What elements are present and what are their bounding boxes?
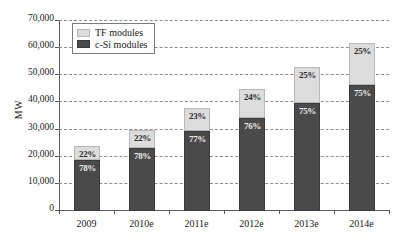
bar-segment-tf: 22% bbox=[129, 130, 155, 148]
bar-segment-tf: 23% bbox=[184, 108, 210, 132]
x-axis-tick bbox=[169, 210, 170, 214]
stacked-bar-chart: MW 010,00020,00030,00040,00050,00060,000… bbox=[0, 0, 397, 242]
bar-group: 77%23% bbox=[184, 21, 210, 211]
light-gray-swatch-icon bbox=[77, 29, 90, 37]
bar-segment-tf: 22% bbox=[74, 146, 100, 160]
bar-segment-label-tf: 22% bbox=[130, 133, 156, 143]
legend-item-tf-modules: TF modules bbox=[77, 27, 148, 39]
bar-group: 75%25% bbox=[349, 21, 375, 211]
y-axis-tick bbox=[55, 101, 59, 102]
y-axis-tick-label: 40,000 bbox=[28, 94, 54, 104]
x-axis-tick-label: 2011e bbox=[167, 218, 227, 229]
gridline bbox=[59, 183, 389, 184]
gridline bbox=[59, 74, 389, 75]
dark-gray-swatch-icon bbox=[77, 40, 90, 48]
y-axis-tick bbox=[55, 156, 59, 157]
y-axis-tick-label: 70,000 bbox=[28, 13, 54, 23]
bar-segment-label-tf: 25% bbox=[350, 46, 376, 56]
x-axis-tick bbox=[389, 210, 390, 214]
x-axis-tick bbox=[114, 210, 115, 214]
bar-segment-label-tf: 23% bbox=[185, 111, 211, 121]
y-axis-tick bbox=[55, 47, 59, 48]
bar-segment-label-csi: 76% bbox=[240, 121, 266, 131]
bar-segment-tf: 24% bbox=[239, 89, 265, 118]
bar-segment-label-tf: 25% bbox=[295, 70, 321, 80]
gridline bbox=[59, 129, 389, 130]
chart-legend: TF modules c-Si modules bbox=[72, 23, 155, 54]
y-axis-tick-label: 10,000 bbox=[28, 176, 54, 186]
x-axis-tick bbox=[334, 210, 335, 214]
bar-segment-label-csi: 75% bbox=[350, 88, 376, 98]
bar-segment-csi: 75% bbox=[294, 103, 320, 211]
x-axis-tick-label: 2009 bbox=[57, 218, 117, 229]
legend-label-tf-modules: TF modules bbox=[95, 27, 143, 39]
gridline bbox=[59, 156, 389, 157]
x-axis-tick-label: 2013e bbox=[277, 218, 337, 229]
x-axis-tick-label: 2014e bbox=[332, 218, 392, 229]
legend-label-csi-modules: c-Si modules bbox=[95, 39, 148, 51]
bar-segment-tf: 25% bbox=[349, 43, 375, 85]
y-axis-tick bbox=[55, 74, 59, 75]
bar-segment-label-tf: 24% bbox=[240, 92, 266, 102]
x-axis-tick-label: 2010e bbox=[112, 218, 172, 229]
x-axis-tick bbox=[279, 210, 280, 214]
bar-segment-csi: 77% bbox=[184, 131, 210, 211]
legend-item-csi-modules: c-Si modules bbox=[77, 39, 148, 51]
bar-segment-tf: 25% bbox=[294, 67, 320, 103]
y-axis-tick bbox=[55, 183, 59, 184]
bar-group: 76%24% bbox=[239, 21, 265, 211]
y-axis-title: MW bbox=[13, 80, 24, 140]
bar-segment-label-csi: 77% bbox=[185, 134, 211, 144]
x-axis-tick bbox=[59, 210, 60, 214]
y-axis-tick-label: 30,000 bbox=[28, 122, 54, 132]
bar-group: 75%25% bbox=[294, 21, 320, 211]
x-axis-tick bbox=[224, 210, 225, 214]
y-axis-tick-label: 0 bbox=[49, 203, 54, 213]
y-axis-tick-label: 60,000 bbox=[28, 40, 54, 50]
x-axis-tick-label: 2012e bbox=[222, 218, 282, 229]
bar-segment-csi: 78% bbox=[129, 148, 155, 212]
gridline bbox=[59, 20, 389, 21]
bar-segment-csi: 76% bbox=[239, 118, 265, 211]
y-axis-tick bbox=[55, 20, 59, 21]
bar-segment-label-csi: 75% bbox=[295, 106, 321, 116]
y-axis-tick-label: 50,000 bbox=[28, 67, 54, 77]
bar-segment-csi: 75% bbox=[349, 85, 375, 211]
bar-segment-csi: 78% bbox=[74, 160, 100, 211]
y-axis-tick-label: 20,000 bbox=[28, 149, 54, 159]
gridline bbox=[59, 101, 389, 102]
bar-segment-label-csi: 78% bbox=[130, 151, 156, 161]
bar-segment-label-csi: 78% bbox=[75, 163, 101, 173]
y-axis-tick bbox=[55, 129, 59, 130]
bar-segment-label-tf: 22% bbox=[75, 149, 101, 159]
